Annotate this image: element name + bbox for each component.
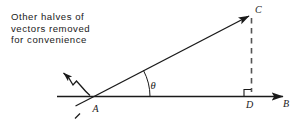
- label-point-b: B: [283, 98, 289, 109]
- squiggle-leader-arrow: [64, 73, 91, 96]
- angle-arc-theta: [144, 71, 151, 97]
- label-point-c: C: [255, 4, 262, 15]
- vector-diagram-figure: Other halves of vectors removed for conv…: [0, 0, 302, 133]
- right-angle-marker-d: [244, 90, 251, 97]
- line-ac-extension: [76, 97, 95, 107]
- diagram-canvas: A B C D θ: [0, 0, 302, 133]
- label-point-a: A: [92, 103, 100, 114]
- vector-ac: [94, 16, 249, 97]
- label-angle-theta: θ: [151, 80, 156, 91]
- line-ac-extension-dash: [75, 114, 80, 119]
- label-point-d: D: [245, 99, 254, 110]
